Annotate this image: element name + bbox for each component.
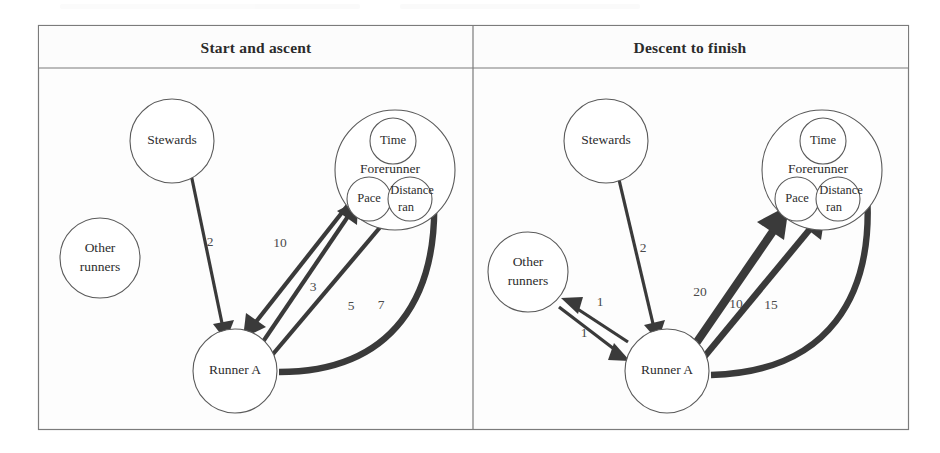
node-label-left-other-runners-line2: runners — [80, 259, 121, 274]
edge-label-left-stewards-runner: 2 — [207, 234, 214, 249]
node-label-right-other-runners-line2: runners — [508, 273, 549, 288]
node-right-other-runners[interactable]: Other runners — [488, 232, 568, 312]
node-label-right-other-runners-line1: Other — [513, 254, 544, 269]
node-label-left-distance-ran-line1: Distance — [390, 183, 434, 197]
node-left-time[interactable]: Time — [370, 118, 416, 164]
edge-label-left-runner-distance: 5 — [348, 298, 355, 313]
node-label-right-distance-ran-line1: Distance — [819, 183, 863, 197]
node-label-left-stewards: Stewards — [147, 132, 197, 147]
node-label-left-pace: Pace — [357, 191, 381, 205]
edge-label-right-runner-distance: 10 — [729, 296, 743, 311]
edge-label-right-runner-other: 1 — [597, 294, 604, 309]
panel-title-left: Start and ascent — [201, 39, 312, 56]
node-label-right-time: Time — [810, 133, 836, 147]
node-label-right-stewards: Stewards — [581, 132, 631, 147]
diagram-canvas: Start and ascent Descent to finish 2 10 … — [0, 0, 940, 453]
edge-label-right-other-runner: 1 — [581, 325, 588, 340]
node-label-left-distance-ran-line2: ran — [398, 200, 415, 214]
figure-container: Start and ascent Descent to finish 2 10 … — [0, 0, 940, 453]
node-label-right-runner-a: Runner A — [641, 362, 693, 377]
edge-label-left-runner-pace: 3 — [310, 279, 317, 294]
node-label-right-pace: Pace — [785, 191, 809, 205]
node-left-runner-a[interactable]: Runner A — [193, 329, 277, 413]
edge-label-right-stewards-runner: 2 — [640, 240, 647, 255]
edge-label-right-runner-pace: 20 — [693, 284, 707, 299]
node-label-right-distance-ran-line2: ran — [826, 200, 843, 214]
node-right-time[interactable]: Time — [800, 118, 846, 164]
edge-label-right-runner-time: 15 — [764, 297, 778, 312]
node-label-left-runner-a: Runner A — [209, 362, 261, 377]
node-right-pace[interactable]: Pace — [775, 177, 819, 221]
node-label-left-time: Time — [380, 133, 406, 147]
panel-title-right: Descent to finish — [634, 39, 747, 56]
node-right-runner-a[interactable]: Runner A — [625, 329, 709, 413]
node-left-pace[interactable]: Pace — [347, 177, 391, 221]
edge-label-left-pace-runner: 10 — [273, 235, 287, 250]
node-left-other-runners[interactable]: Other runners — [60, 218, 140, 298]
edge-label-left-runner-time: 7 — [378, 297, 385, 312]
node-left-stewards[interactable]: Stewards — [130, 99, 214, 183]
node-label-left-other-runners-line1: Other — [85, 240, 116, 255]
node-right-stewards[interactable]: Stewards — [564, 99, 648, 183]
